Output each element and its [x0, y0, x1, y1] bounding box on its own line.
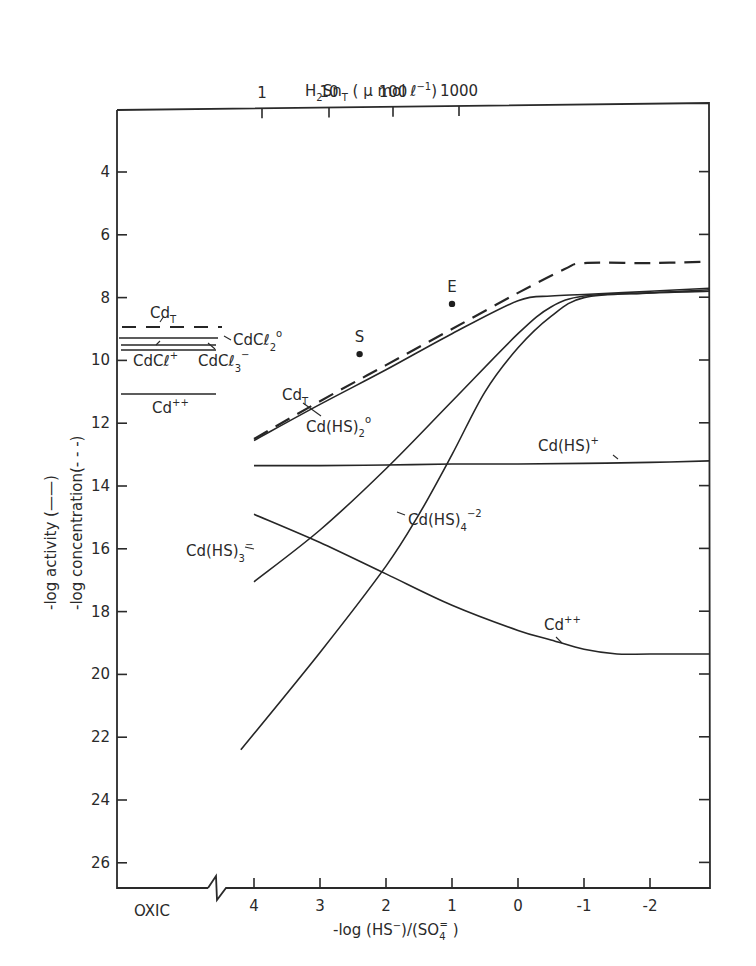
- y-tick-label: 16: [91, 540, 110, 558]
- series-cd-hs: [254, 461, 709, 466]
- label-cdhs2: Cd(HS)2o: [306, 414, 371, 439]
- series-cd-t-total-concentration: [254, 262, 709, 439]
- x-oxic-label: OXIC: [134, 902, 170, 920]
- label-cdT: CdT: [282, 386, 309, 407]
- x-top-axis-title: H2SnT ( μ mol ℓ−1): [305, 81, 437, 103]
- label-cdcl: CdCℓ+: [133, 350, 178, 370]
- y-tick-label: 18: [91, 603, 110, 621]
- label-cd-oxic: Cd++: [152, 397, 189, 417]
- series-cd-hs-4-2: [241, 290, 710, 750]
- y-tick-label: 22: [91, 728, 110, 746]
- label-cdhs3: Cd(HS)3−: [186, 539, 253, 564]
- y-tick-label: 8: [100, 289, 110, 307]
- inline-labels: CdT CdCℓ2o CdCℓ+ CdCℓ3− Cd++ CdT Cd(HS)2…: [133, 304, 599, 634]
- points-layer: SE: [355, 278, 457, 357]
- label-cd-main: Cd++: [544, 614, 581, 634]
- series-layer: [241, 262, 710, 750]
- y-tick-label: 10: [91, 351, 110, 369]
- y-tick-label: 20: [91, 665, 110, 683]
- data-point-label: S: [355, 328, 365, 346]
- x-tick-label: 4: [249, 897, 259, 915]
- data-point-s: [356, 351, 362, 357]
- x-tick-label: 3: [315, 897, 325, 915]
- y-tick-label: 4: [100, 163, 110, 181]
- x-top-tick-label: 1000: [440, 82, 478, 100]
- y-axis-title-activity: -log activity (——): [42, 475, 60, 610]
- x-tick-label: 0: [513, 897, 523, 915]
- y-tick-label: 26: [91, 854, 110, 872]
- data-point-e: [449, 301, 455, 307]
- x-tick-label: 2: [381, 897, 391, 915]
- series-cd-hs-3: [254, 291, 709, 581]
- x-tick-label: -1: [577, 897, 592, 915]
- series-cd: [254, 514, 709, 654]
- plot-frame: [117, 103, 710, 900]
- data-point-label: E: [447, 278, 456, 296]
- y-axis-title-concentration: -log concentration(- - -): [68, 436, 86, 610]
- y-tick-label: 6: [100, 226, 110, 244]
- label-cdcl3: CdCℓ3−: [198, 349, 249, 374]
- label-cdhs: Cd(HS)+: [538, 435, 599, 455]
- x-tick-label: -2: [643, 897, 658, 915]
- x-axis-title: -log (HS−)/(SO4= ): [333, 919, 459, 942]
- x-axis-ticks: 43210-1-2: [249, 878, 657, 915]
- x-tick-label: 1: [447, 897, 457, 915]
- chart: 468101214161820222426 43210-1-2 11010010…: [0, 0, 756, 966]
- y-tick-label: 24: [91, 791, 110, 809]
- label-cdhs4: Cd(HS)4−2: [408, 508, 482, 533]
- y-axis-ticks: 468101214161820222426: [91, 163, 710, 872]
- label-cdT-oxic: CdT: [150, 304, 177, 325]
- y-tick-label: 14: [91, 477, 110, 495]
- y-tick-label: 12: [91, 414, 110, 432]
- x-top-tick-label: 1: [257, 84, 267, 102]
